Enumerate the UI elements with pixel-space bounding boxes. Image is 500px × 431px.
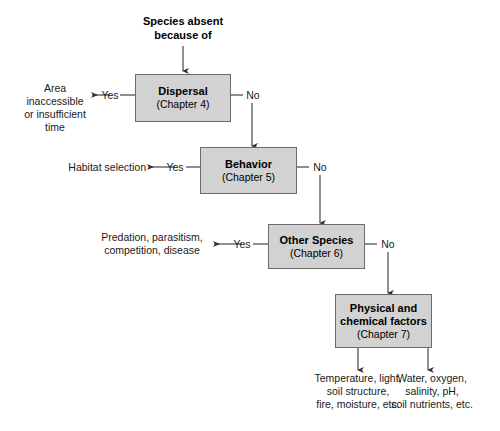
node-dispersal-subtitle: (Chapter 4) <box>156 98 209 111</box>
node-other-species-subtitle: (Chapter 6) <box>290 247 343 260</box>
node-physical-chemical-factors[interactable]: Physical and chemical factors (Chapter 7… <box>335 294 432 348</box>
page-title: Species absent because of <box>123 14 243 42</box>
node-behavior-title: Behavior <box>225 158 272 171</box>
connector-layer <box>0 0 500 431</box>
node-other-species-title: Other Species <box>280 234 354 247</box>
node-behavior-subtitle: (Chapter 5) <box>222 171 275 184</box>
node-behavior[interactable]: Behavior (Chapter 5) <box>200 147 297 194</box>
edge-label-dispersal-no: No <box>241 89 265 101</box>
outcome-habitat-selection: Habitat selection <box>42 161 146 174</box>
edge-label-behavior-yes: Yes <box>161 161 189 173</box>
edge-label-behavior-no: No <box>308 161 332 173</box>
flowchart-diagram: Species absent because of Dispersal (Cha… <box>0 0 500 431</box>
node-physical-chemical-factors-title: Physical and chemical factors <box>340 302 427 328</box>
edge-label-other-species-no: No <box>376 238 400 250</box>
node-dispersal[interactable]: Dispersal (Chapter 4) <box>135 74 231 122</box>
node-physical-chemical-factors-subtitle: (Chapter 7) <box>357 328 410 341</box>
edge-label-other-species-yes: Yes <box>228 238 256 250</box>
node-dispersal-title: Dispersal <box>158 85 208 98</box>
outcome-water-oxygen: Water, oxygen, salinity, pH, soil nutrie… <box>368 372 496 411</box>
outcome-area-inaccessible: Area inaccessible or insufficient time <box>16 82 94 134</box>
edge-label-dispersal-yes: Yes <box>96 89 124 101</box>
outcome-predation-competition: Predation, parasitism, competition, dise… <box>92 231 212 257</box>
node-other-species[interactable]: Other Species (Chapter 6) <box>268 224 365 269</box>
